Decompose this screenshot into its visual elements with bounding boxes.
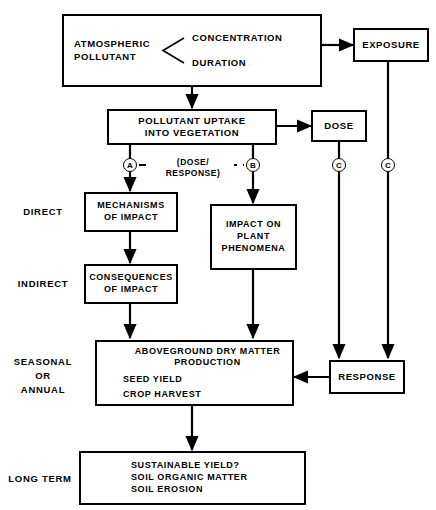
marker-a-label: A xyxy=(127,161,133,170)
impact-plant-line-1: IMPACT ON xyxy=(226,219,281,231)
box-aboveground-dry-matter[interactable]: ABOVEGROUND DRY MATTER PRODUCTION SEED Y… xyxy=(95,340,294,406)
box-response[interactable]: RESPONSE xyxy=(329,360,405,394)
aboveground-line-3: SEED YIELD xyxy=(123,374,182,386)
seasonal-line-2: OR xyxy=(8,369,78,383)
box-impact-on-plant-phenomena[interactable]: IMPACT ON PLANT PHENOMENA xyxy=(210,204,297,270)
seasonal-line-3: ANNUAL xyxy=(8,383,78,397)
impact-plant-line-3: PHENOMENA xyxy=(222,243,286,255)
uptake-line-2: INTO VEGETATION xyxy=(145,127,240,139)
stage-label-indirect: INDIRECT xyxy=(8,277,78,291)
uptake-line-1: POLLUTANT UPTAKE xyxy=(138,115,245,127)
marker-b: B xyxy=(246,158,260,172)
box-long-term-outcomes[interactable]: SUSTAINABLE YIELD? SOIL ORGANIC MATTER S… xyxy=(79,451,306,505)
stage-label-long-term: LONG TERM xyxy=(2,472,78,486)
aboveground-line-2: PRODUCTION xyxy=(174,357,241,369)
mechanisms-line-2: OF IMPACT xyxy=(104,212,158,224)
stage-label-direct: DIRECT xyxy=(8,205,78,219)
aboveground-line-1: ABOVEGROUND DRY MATTER xyxy=(135,346,281,358)
marker-c-dose: C xyxy=(332,158,346,172)
box-atmospheric-pollutant[interactable]: ATMOSPHERIC POLLUTANT CONCENTRATION DURA… xyxy=(62,14,322,87)
dose-response-line-1: (DOSE/ xyxy=(152,157,234,168)
box-consequences-of-impact[interactable]: CONSEQUENCES OF IMPACT xyxy=(84,264,178,304)
box-mechanisms-of-impact[interactable]: MECHANISMS OF IMPACT xyxy=(84,192,178,232)
angle-brace-icon xyxy=(160,36,186,66)
marker-c-exposure-label: C xyxy=(385,161,391,170)
dose-label: DOSE xyxy=(324,120,353,132)
seasonal-line-1: SEASONAL xyxy=(8,355,78,369)
impact-plant-line-2: PLANT xyxy=(237,231,270,243)
box-dose[interactable]: DOSE xyxy=(311,110,367,142)
marker-c-exposure: C xyxy=(381,158,395,172)
marker-a: A xyxy=(123,158,137,172)
marker-c-dose-label: C xyxy=(336,161,342,170)
box-pollutant-uptake[interactable]: POLLUTANT UPTAKE INTO VEGETATION xyxy=(107,109,277,145)
diagram-canvas: ATMOSPHERIC POLLUTANT CONCENTRATION DURA… xyxy=(0,0,436,510)
marker-b-label: B xyxy=(250,161,256,170)
mechanisms-line-1: MECHANISMS xyxy=(97,200,165,212)
dose-response-connector-label: (DOSE/ RESPONSE) xyxy=(152,157,234,178)
consequences-line-2: OF IMPACT xyxy=(104,284,158,296)
consequences-line-1: CONSEQUENCES xyxy=(89,272,173,284)
atmospheric-pollutant-terms: CONCENTRATION DURATION xyxy=(192,32,282,70)
exposure-label: EXPOSURE xyxy=(362,39,420,51)
longterm-line-3: SOIL EROSION xyxy=(131,484,203,496)
stage-label-seasonal-or-annual: SEASONAL OR ANNUAL xyxy=(8,355,78,396)
aboveground-line-4: CROP HARVEST xyxy=(123,389,201,401)
longterm-line-1: SUSTAINABLE YIELD? xyxy=(131,460,239,472)
dose-response-line-2: RESPONSE) xyxy=(152,168,234,179)
response-label: RESPONSE xyxy=(338,371,396,383)
box-exposure[interactable]: EXPOSURE xyxy=(353,28,429,62)
longterm-line-2: SOIL ORGANIC MATTER xyxy=(131,472,248,484)
atmospheric-pollutant-label: ATMOSPHERIC POLLUTANT xyxy=(74,38,150,64)
